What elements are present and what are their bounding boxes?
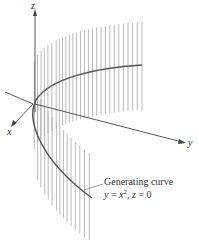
y-axis-label: y <box>188 138 192 148</box>
eq-rest: = 0 <box>136 189 152 200</box>
generating-curve-annotation: Generating curve y = x2, z = 0 <box>104 176 173 200</box>
y-axis <box>35 104 186 144</box>
z-axis <box>33 9 37 112</box>
annotation-title: Generating curve <box>104 176 173 188</box>
eq-equals: = <box>108 189 119 200</box>
z-axis-label: z <box>31 1 35 11</box>
parabolic-cylinder-diagram <box>0 0 199 246</box>
annotation-leader <box>84 184 103 190</box>
annotation-equation: y = x2, z = 0 <box>104 188 173 201</box>
x-axis-label: x <box>7 127 11 137</box>
surface-rulings <box>34 22 142 240</box>
x-axis <box>5 92 33 127</box>
